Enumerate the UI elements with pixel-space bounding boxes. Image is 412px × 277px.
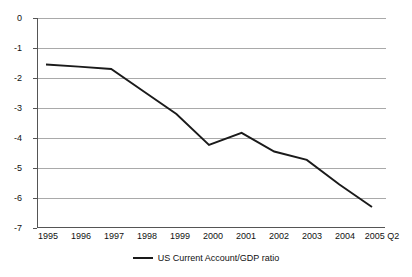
gridline-3: [38, 108, 386, 109]
x-axis-tick-label-1997: 1997: [96, 231, 132, 241]
y-axis-tick-label-2: -2: [0, 74, 22, 83]
x-axis-tick-label-2005-q2: 2005 Q2: [357, 231, 407, 241]
y-axis-tick-label-6: -6: [0, 194, 22, 203]
gridline-0: [38, 18, 386, 19]
plot-area: [37, 18, 385, 228]
x-axis-tick-label-2002: 2002: [261, 231, 297, 241]
x-axis-tick-label-1999: 1999: [162, 231, 198, 241]
x-axis-tick-label-2000: 2000: [195, 231, 231, 241]
y-axis-tick-label-7: -7: [0, 224, 22, 233]
x-axis-tick-label-2001: 2001: [228, 231, 264, 241]
line-chart: 0 -1 -2 -3 -4 -5 -6 -7 1995 1996 1997 19…: [0, 0, 412, 277]
y-axis-tick-label-1: -1: [0, 44, 22, 53]
gridline-1: [38, 48, 386, 49]
x-axis-tick-label-1995: 1995: [30, 231, 66, 241]
y-axis-tick-mark-7: [33, 228, 37, 229]
y-axis-tick-label-5: -5: [0, 164, 22, 173]
y-axis-tick-label-4: -4: [0, 134, 22, 143]
chart-legend: US Current Account/GDP ratio: [0, 253, 412, 263]
gridline-4: [38, 138, 386, 139]
x-axis-tick-label-1996: 1996: [63, 231, 99, 241]
legend-line-swatch-icon: [133, 257, 153, 259]
gridline-6: [38, 198, 386, 199]
gridline-5: [38, 168, 386, 169]
x-axis-tick-label-2003: 2003: [294, 231, 330, 241]
gridline-2: [38, 78, 386, 79]
legend-label-us-current-account-gdp-ratio: US Current Account/GDP ratio: [158, 253, 279, 263]
y-axis-tick-label-3: -3: [0, 104, 22, 113]
y-axis-tick-label-0: 0: [0, 14, 22, 23]
x-axis-tick-label-1998: 1998: [129, 231, 165, 241]
